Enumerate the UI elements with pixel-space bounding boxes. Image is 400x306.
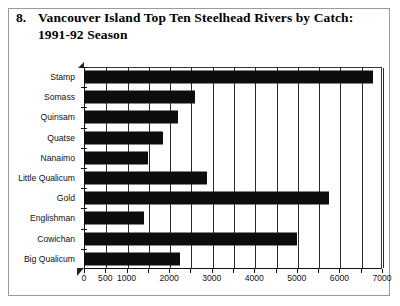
y-axis-tick (81, 168, 87, 169)
y-axis-labels: StampSomassQuinsamQuatseNanaimoLittle Qu… (0, 67, 80, 269)
bar (84, 192, 329, 205)
x-axis: 05001000200030004000500060007000 (84, 269, 382, 289)
y-axis-tick (81, 249, 87, 250)
bar (84, 71, 373, 84)
gridline (383, 68, 384, 268)
y-axis-tick (81, 67, 87, 68)
bar (84, 111, 178, 124)
y-axis-label: Quinsam (0, 107, 80, 127)
bar-chart: StampSomassQuinsamQuatseNanaimoLittle Qu… (0, 0, 400, 306)
x-axis-tick-label: 0 (82, 273, 87, 283)
bar-row (84, 107, 382, 127)
y-axis-tick (81, 229, 87, 230)
x-axis-tick (276, 269, 277, 273)
y-axis-label: Quatse (0, 128, 80, 148)
y-axis-tick (81, 208, 87, 209)
y-axis-label: Gold (0, 188, 80, 208)
y-axis-label: Englishman (0, 208, 80, 228)
y-axis-tick (81, 87, 87, 88)
bar (84, 172, 207, 185)
bar (84, 151, 148, 164)
y-axis-label: Nanaimo (0, 148, 80, 168)
bar-row (84, 128, 382, 148)
bar-row (84, 148, 382, 168)
x-axis-tick (148, 269, 149, 273)
y-axis-tick (81, 188, 87, 189)
x-axis-tick-label: 4000 (245, 273, 264, 283)
bar-row (84, 87, 382, 107)
x-axis-tick (318, 269, 319, 273)
x-axis-tick-label: 2000 (160, 273, 179, 283)
bar (84, 212, 144, 225)
y-axis-tick (81, 148, 87, 149)
x-axis-tick-label: 500 (98, 273, 112, 283)
bar-row (84, 249, 382, 269)
bar (84, 91, 195, 104)
bars-layer (84, 67, 382, 269)
y-axis-tick (81, 107, 87, 108)
x-axis-tick-label: 1000 (117, 273, 136, 283)
x-axis-tick (190, 269, 191, 273)
y-axis-label: Stamp (0, 67, 80, 87)
x-axis-tick-label: 7000 (372, 273, 391, 283)
bar-row (84, 188, 382, 208)
x-axis-tick-label: 6000 (330, 273, 349, 283)
x-axis-tick (361, 269, 362, 273)
bar-row (84, 168, 382, 188)
bar (84, 131, 163, 144)
y-axis-label: Big Qualicum (0, 249, 80, 269)
y-axis-label: Somass (0, 87, 80, 107)
y-axis-label: Little Qualicum (0, 168, 80, 188)
x-axis-tick (233, 269, 234, 273)
bar-row (84, 208, 382, 228)
bar-row (84, 67, 382, 87)
bar (84, 232, 297, 245)
x-axis-tick-label: 3000 (202, 273, 221, 283)
bar (84, 252, 180, 265)
y-axis-tick (81, 128, 87, 129)
x-axis-tick-label: 5000 (287, 273, 306, 283)
bar-row (84, 229, 382, 249)
y-axis-label: Cowichan (0, 229, 80, 249)
